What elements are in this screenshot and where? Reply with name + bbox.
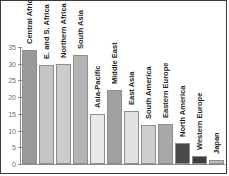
bar-category-label: North America <box>179 86 187 137</box>
bar[interactable] <box>39 65 54 164</box>
bar[interactable] <box>209 160 224 164</box>
chart-figure: 05101520253035 Central AfricaE. and S. A… <box>0 0 227 174</box>
bar-category-label: Japan <box>213 132 221 154</box>
bar[interactable] <box>107 90 122 164</box>
bar-slot[interactable]: South Asia <box>73 7 88 164</box>
bar-category-label: Asia-Pacific <box>94 66 102 109</box>
bar-category-label: E. and S. Africa <box>43 4 51 59</box>
y-axis-tick-label: 10 <box>8 127 16 134</box>
bar-slot[interactable]: Asia-Pacific <box>90 7 105 164</box>
bar-slot[interactable]: Middle East <box>107 7 122 164</box>
bar-slot[interactable]: North America <box>175 7 190 164</box>
bar-category-label: Middle East <box>111 42 119 84</box>
y-axis-tick-label: 35 <box>8 44 16 51</box>
bar[interactable] <box>192 156 207 164</box>
y-axis-tick-label: 30 <box>8 60 16 67</box>
y-axis-tick-label: 15 <box>8 110 16 117</box>
bar[interactable] <box>175 143 190 164</box>
bar-slot[interactable]: Eastern Europe <box>158 7 173 164</box>
bar-series: Central AfricaE. and S. AfricaNorthern A… <box>21 7 225 165</box>
bar-category-label: South Asia <box>77 10 85 49</box>
y-axis-tick-label: 0 <box>12 161 16 168</box>
bar[interactable] <box>22 50 37 164</box>
plot-area: 05101520253035 Central AfricaE. and S. A… <box>20 7 225 172</box>
bar-category-label: South America <box>145 66 153 119</box>
bar-slot[interactable]: South America <box>141 7 156 164</box>
y-axis-tick-label: 5 <box>12 144 16 151</box>
bar-category-label: Western Europe <box>196 93 204 150</box>
bar[interactable] <box>56 64 71 164</box>
y-axis-tick-label: 25 <box>8 77 16 84</box>
bar-category-label: East Asia <box>128 72 136 106</box>
bar-slot[interactable]: Northern Africa <box>56 7 71 164</box>
bar[interactable] <box>158 124 173 164</box>
bar[interactable] <box>124 111 139 164</box>
bar-slot[interactable]: Japan <box>209 7 224 164</box>
bar[interactable] <box>90 114 105 164</box>
y-axis-tick-label: 20 <box>8 94 16 101</box>
bar-category-label: Northern Africa <box>60 3 68 58</box>
bar-slot[interactable]: Central Africa <box>22 7 37 164</box>
bar[interactable] <box>73 55 88 164</box>
bar-slot[interactable]: Western Europe <box>192 7 207 164</box>
bar-slot[interactable]: East Asia <box>124 7 139 164</box>
bar-slot[interactable]: E. and S. Africa <box>39 7 54 164</box>
bar-category-label: Eastern Europe <box>162 62 170 117</box>
bar[interactable] <box>141 125 156 164</box>
bar-category-label: Central Africa <box>26 0 34 44</box>
